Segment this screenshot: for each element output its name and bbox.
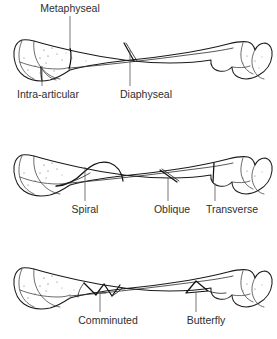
fracture-classification-figure: Metaphyseal Intra-articular Diaphyseal — [0, 0, 277, 339]
fracture-diaphyseal-secondary — [126, 43, 137, 61]
label-spiral: Spiral — [72, 203, 99, 215]
panel-3-annotations: Comminuted Butterfly — [78, 292, 226, 326]
figure-canvas: Metaphyseal Intra-articular Diaphyseal — [0, 0, 277, 339]
label-oblique: Oblique — [154, 203, 190, 215]
panel-1-bone-diagram — [14, 40, 272, 81]
label-intra-articular: Intra-articular — [17, 88, 79, 100]
panel-2-bone-diagram — [14, 155, 272, 196]
label-butterfly: Butterfly — [187, 314, 226, 326]
panel-3-bone-diagram — [14, 268, 272, 309]
label-comminuted: Comminuted — [78, 314, 138, 326]
label-diaphyseal: Diaphyseal — [120, 88, 172, 100]
fracture-diaphyseal — [124, 43, 134, 61]
label-metaphyseal: Metaphyseal — [40, 2, 100, 14]
label-transverse: Transverse — [206, 203, 258, 215]
